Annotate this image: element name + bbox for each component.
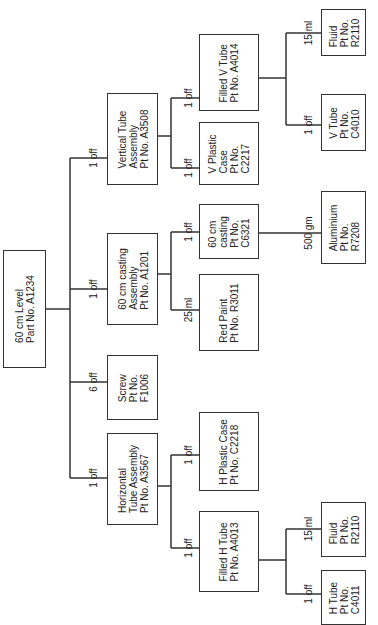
qty-label: 1 off <box>183 88 194 107</box>
qty-label: 1 off <box>303 115 314 134</box>
node-label: Horizontal Tube Assembly Pt No. A3567 <box>116 445 149 513</box>
node-fluid-h: Fluid Pt No. R2110 <box>321 502 366 557</box>
node-filled-h-tube: Filled H Tube Pt No. A4013 <box>199 511 259 592</box>
qty-label: 6 off <box>88 372 99 391</box>
node-label: Vertical Tube Assembly Pt No. A3508 <box>116 110 149 169</box>
node-label: H Plastic Case Pt No. C2218 <box>218 419 240 485</box>
node-label: V Plastic Case Pt No. C2217 <box>207 134 251 173</box>
qty-label: 1 off <box>88 148 99 167</box>
node-label: 60 cm casting Pt No. C6321 <box>207 216 251 248</box>
node-horizontal-tube-assembly: Horizontal Tube Assembly Pt No. A3567 <box>107 433 158 525</box>
node-filled-v-tube: Filled V Tube Pt No. A4014 <box>199 34 259 111</box>
node-v-tube: V Tube Pt No. C4010 <box>321 94 366 151</box>
node-fluid-v: Fluid Pt No. R2110 <box>321 9 366 56</box>
node-label: 60 cm casting Assembly Pt No. A1201 <box>116 248 149 310</box>
qty-label: 1 off <box>183 445 194 464</box>
node-label: Aluminium Pt No. R7208 <box>327 204 360 251</box>
node-label: 60 cm Level Part No. A1234 <box>14 275 36 343</box>
node-label: Filled H Tube Pt No. A4013 <box>218 522 240 581</box>
qty-label: 1 off <box>183 222 194 241</box>
node-label: H Tube Pt No. C4011 <box>327 581 360 613</box>
node-60cm-level: 60 cm Level Part No. A1234 <box>3 250 46 368</box>
node-label: Fluid Pt No. R2110 <box>327 515 360 544</box>
node-label: Fluid Pt No. R2110 <box>327 18 360 47</box>
qty-label: 25 ml <box>183 298 194 322</box>
qty-label: 15 ml <box>303 517 314 541</box>
qty-label: 1 off <box>88 468 99 487</box>
qty-label: 500 gm <box>303 216 314 249</box>
qty-label: 1 off <box>183 538 194 557</box>
node-vertical-tube-assembly: Vertical Tube Assembly Pt No. A3508 <box>107 93 158 185</box>
node-label: Filled V Tube Pt No. A4014 <box>218 43 240 102</box>
qty-label: 1 off <box>303 584 314 603</box>
node-aluminium: Aluminium Pt No. R7208 <box>321 191 366 264</box>
node-v-plastic-case: V Plastic Case Pt No. C2217 <box>199 122 259 185</box>
node-h-plastic-case: H Plastic Case Pt No. C2218 <box>199 412 259 491</box>
node-label: Red Paint Pt No. R3011 <box>218 283 240 342</box>
node-label: V Tube Pt No. C4010 <box>327 107 360 139</box>
qty-label: 1 off <box>88 279 99 298</box>
node-casting-assembly: 60 cm casting Assembly Pt No. A1201 <box>107 233 158 325</box>
node-h-tube: H Tube Pt No. C4011 <box>321 570 366 625</box>
qty-label: 15 ml <box>303 21 314 45</box>
node-label: Screw Pt No. F1006 <box>116 373 149 401</box>
qty-label: 1 off <box>183 158 194 177</box>
node-60cm-casting: 60 cm casting Pt No. C6321 <box>199 204 259 259</box>
node-screw: Screw Pt No. F1006 <box>107 355 158 420</box>
node-red-paint: Red Paint Pt No. R3011 <box>199 274 259 351</box>
